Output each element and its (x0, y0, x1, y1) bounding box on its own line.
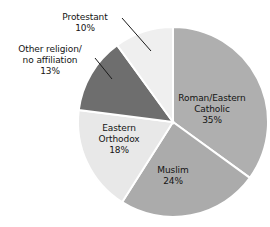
pie-label-other-religion-name-line1: Other religion/ (2, 44, 98, 55)
pie-chart-figure: Protestant 10% Other religion/ no affili… (0, 0, 270, 227)
pie-label-roman-eastern-catholic-name-line1: Roman/Eastern (167, 93, 257, 104)
pie-label-protestant-name: Protestant (47, 12, 123, 23)
pie-label-eastern-orthodox-percent: 18% (88, 145, 150, 156)
pie-label-roman-eastern-catholic: Roman/Eastern Catholic 35% (167, 93, 257, 126)
pie-label-roman-eastern-catholic-name-line2: Catholic (167, 104, 257, 115)
pie-label-protestant: Protestant 10% (47, 12, 123, 34)
pie-label-other-religion: Other religion/ no affiliation 13% (2, 44, 98, 77)
pie-label-muslim-percent: 24% (144, 176, 202, 187)
pie-label-muslim: Muslim 24% (144, 165, 202, 187)
pie-label-roman-eastern-catholic-percent: 35% (167, 115, 257, 126)
pie-label-eastern-orthodox-name-line2: Orthodox (88, 134, 150, 145)
pie-label-eastern-orthodox-name-line1: Eastern (88, 123, 150, 134)
pie-label-other-religion-name-line2: no affiliation (2, 55, 98, 66)
pie-label-muslim-name: Muslim (144, 165, 202, 176)
pie-label-eastern-orthodox: Eastern Orthodox 18% (88, 123, 150, 156)
pie-label-protestant-percent: 10% (47, 23, 123, 34)
pie-label-other-religion-percent: 13% (2, 66, 98, 77)
